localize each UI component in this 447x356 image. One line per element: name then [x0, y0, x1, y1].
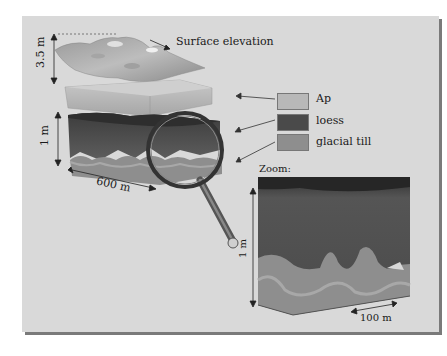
legend-label-glacial-till: glacial till — [316, 135, 371, 148]
legend-swatch-loess — [277, 114, 309, 131]
legend-connectors — [235, 93, 275, 162]
zoom-inset — [258, 177, 410, 315]
height-top-label: 3.5 m — [34, 37, 47, 68]
zoom-title: Zoom: — [259, 163, 291, 174]
diagram-graphics — [0, 0, 447, 356]
legend-label-loess: loess — [316, 114, 344, 127]
loess-layer — [68, 113, 220, 160]
ap-layer — [65, 80, 212, 116]
legend-swatch-ap — [277, 93, 309, 110]
zoom-height-label: 1 m — [237, 239, 248, 258]
surface-elevation-label: Surface elevation — [176, 35, 274, 48]
height-layers-label: 1 m — [38, 125, 51, 146]
legend-swatch-glacial-till — [277, 134, 309, 151]
zoom-width-label: 100 m — [360, 312, 392, 323]
legend-label-ap: Ap — [316, 92, 331, 105]
